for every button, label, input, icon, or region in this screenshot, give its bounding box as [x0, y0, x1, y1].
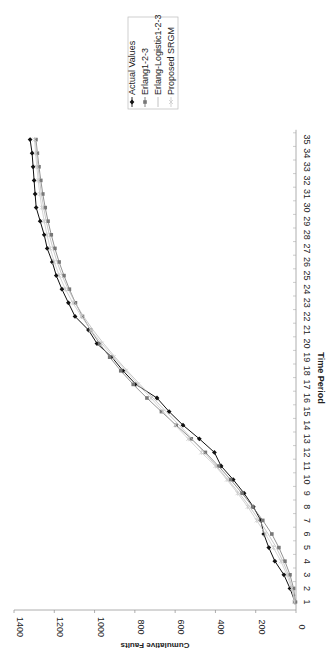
time-tick-label: 1: [302, 599, 312, 604]
time-tick-label: 21: [302, 325, 312, 335]
data-point: [240, 491, 244, 495]
time-axis: 1234567891011121314151617181920212223242…: [293, 130, 312, 610]
legend-item-proposed-srgm: Proposed SRGM: [166, 27, 176, 95]
chart: 0200400600800100012001400 12345678910111…: [0, 0, 332, 672]
time-tick-label: 22: [302, 311, 312, 321]
legend: Actual Values Erlang1-2-3 Erlang-Logisti…: [127, 14, 178, 109]
time-tick-label: 26: [302, 257, 312, 267]
time-tick-label: 28: [302, 230, 312, 240]
value-tick-label: 400: [216, 619, 226, 634]
data-point: [33, 192, 38, 197]
data-point: [246, 504, 250, 509]
data-point: [149, 396, 153, 401]
time-tick-label: 8: [302, 504, 312, 509]
data-point: [38, 219, 43, 224]
data-point: [42, 219, 46, 224]
time-tick-label: 10: [302, 475, 312, 485]
value-tick-label: 200: [257, 619, 267, 634]
data-point: [277, 546, 281, 550]
data-point: [279, 559, 283, 564]
time-tick-label: 7: [302, 518, 312, 523]
data-point: [261, 519, 265, 523]
time-tick-label: 34: [302, 148, 312, 158]
time-tick-label: 13: [302, 434, 312, 444]
data-point: [266, 545, 271, 550]
time-tick-label: 16: [302, 393, 312, 403]
value-tick-label: 1400: [15, 617, 25, 637]
time-tick-label: 18: [302, 366, 312, 376]
time-tick-label: 23: [302, 298, 312, 308]
square-marker-icon: [143, 100, 147, 104]
time-tick-label: 12: [302, 447, 312, 457]
time-tick-label: 2: [302, 586, 312, 591]
time-tick-label: 15: [302, 407, 312, 417]
series-erlang-logistic1-2-3: [35, 140, 294, 602]
series-proposed-srgm: [33, 137, 297, 604]
time-tick-label: 11: [302, 461, 312, 470]
time-tick-label: 14: [302, 420, 312, 430]
time-tick-label: 35: [302, 135, 312, 145]
legend-item-actual-values: Actual Values: [127, 40, 137, 95]
time-tick-label: 27: [302, 243, 312, 253]
value-tick-label: 1200: [55, 617, 65, 637]
time-tick-label: 19: [302, 352, 312, 362]
time-tick-label: 20: [302, 339, 312, 349]
legend-label: Erlang1-2-3: [140, 48, 150, 95]
data-point: [271, 545, 275, 550]
data-point: [108, 355, 112, 359]
x-axis-title: Time Period: [316, 352, 326, 403]
time-tick-label: 29: [302, 216, 312, 226]
time-tick-label: 6: [302, 531, 312, 536]
legend-item-erlang-logistic: Erlang-Logistic1-2-3: [153, 14, 163, 95]
time-tick-label: 25: [302, 271, 312, 281]
time-tick-label: 33: [302, 162, 312, 172]
series-erlang1-2-3: [34, 138, 297, 604]
legend-label: Proposed SRGM: [166, 27, 176, 95]
data-point: [199, 450, 203, 455]
time-tick-label: 17: [302, 379, 312, 389]
time-tick-label: 24: [302, 284, 312, 294]
value-tick-label: 1000: [96, 617, 106, 637]
legend-label: Erlang-Logistic1-2-3: [153, 14, 163, 95]
data-point: [28, 137, 33, 142]
time-tick-label: 4: [302, 559, 312, 564]
time-tick-label: 9: [302, 491, 312, 496]
time-tick-label: 30: [302, 203, 312, 213]
data-point: [145, 396, 149, 400]
value-tick-label: 600: [176, 619, 186, 634]
time-tick-label: 31: [302, 189, 312, 199]
y-axis-title: Cumulative Faults: [120, 641, 189, 650]
data-point: [34, 205, 39, 210]
data-point: [32, 178, 37, 183]
legend-item-erlang: Erlang1-2-3: [140, 48, 150, 95]
series-layer: [28, 137, 298, 604]
data-point: [66, 300, 71, 305]
time-tick-label: 5: [302, 545, 312, 550]
data-point: [255, 518, 259, 523]
value-tick-label: 0: [297, 624, 307, 629]
value-tick-label: 800: [136, 619, 146, 634]
data-point: [251, 505, 255, 509]
data-point: [119, 369, 123, 373]
data-point: [131, 383, 135, 387]
legend-label: Actual Values: [127, 40, 137, 95]
time-tick-label: 3: [302, 572, 312, 577]
series-actual-values: [28, 137, 298, 604]
time-tick-label: 32: [302, 175, 312, 185]
value-axis: 0200400600800100012001400: [14, 610, 307, 637]
data-point: [270, 532, 274, 536]
